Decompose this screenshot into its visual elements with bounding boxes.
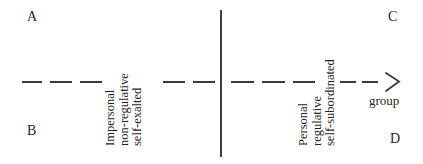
label-right-pole: Personal regulative self-subordinated (297, 59, 338, 146)
axis-dash-segment (193, 81, 215, 83)
diagram-canvas: A B C D Impersonal non-regulative self-e… (0, 0, 423, 164)
axis-dash-segment (362, 81, 378, 83)
arrow-caption-group: group (369, 94, 399, 108)
axis-dash-segment (262, 81, 285, 83)
vertical-divider-line (220, 10, 222, 157)
corner-label-a: A (27, 10, 38, 24)
axis-dash-segment (50, 81, 72, 83)
label-right-pole-line-2: regulative (311, 59, 325, 146)
axis-dash-segment (163, 81, 185, 83)
corner-label-b: B (27, 124, 37, 138)
arrow-right-icon (385, 70, 401, 94)
axis-dash-segment (231, 81, 254, 83)
label-left-pole: Impersonal non-regulative self-exalted (104, 73, 145, 146)
label-right-pole-line-3: self-subordinated (324, 59, 338, 146)
axis-dash-segment (22, 81, 42, 83)
axis-dash-segment (340, 81, 356, 83)
label-left-pole-line-3: self-exalted (131, 73, 145, 146)
axis-dash-segment (80, 81, 102, 83)
label-right-pole-line-1: Personal (297, 59, 311, 146)
label-left-pole-line-2: non-regulative (118, 73, 132, 146)
corner-label-d: D (390, 132, 401, 146)
label-left-pole-line-1: Impersonal (104, 73, 118, 146)
corner-label-c: C (388, 10, 398, 24)
